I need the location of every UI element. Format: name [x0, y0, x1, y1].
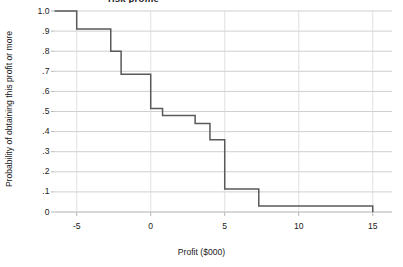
chart-figure: risk profile Probability of obtaining th…: [0, 0, 403, 267]
axis-ticks: [51, 11, 373, 216]
y-tick-label: .2: [24, 167, 50, 176]
y-tick-label: .6: [24, 87, 50, 96]
y-tick-label: .9: [24, 27, 50, 36]
chart-title: risk profile: [108, 0, 268, 3]
y-tick-label: .3: [24, 147, 50, 156]
y-axis-title: Probability of obtaining this profit or …: [4, 2, 14, 216]
x-tick-label: 5: [205, 222, 245, 231]
x-tick-label: 10: [279, 222, 319, 231]
y-tick-label: 1.0: [24, 7, 50, 16]
x-axis-title: Profit ($000): [0, 247, 403, 257]
y-tick-label: .1: [24, 187, 50, 196]
x-tick-label: 15: [353, 222, 393, 231]
y-tick-label: .8: [24, 47, 50, 56]
y-tick-label: .7: [24, 67, 50, 76]
y-tick-label: .4: [24, 127, 50, 136]
y-tick-label: .5: [24, 107, 50, 116]
x-tick-label: 0: [131, 222, 171, 231]
gridlines: [55, 11, 393, 212]
y-tick-label: 0: [24, 208, 50, 217]
x-tick-label: -5: [57, 222, 97, 231]
